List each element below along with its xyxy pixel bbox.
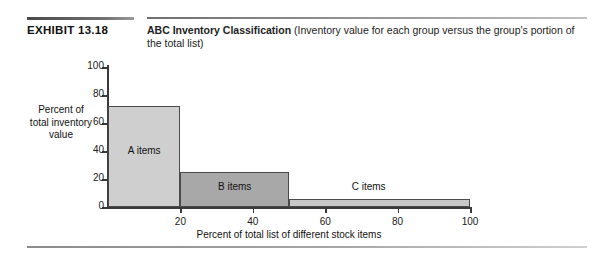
y-axis-tick-label: 0: [98, 200, 104, 211]
x-axis-tick-mark: [398, 207, 400, 213]
x-axis-tick-mark: [253, 207, 255, 213]
x-axis-tick-label: 100: [462, 216, 479, 227]
bar-label-b: B items: [218, 181, 251, 192]
exhibit-number: EXHIBIT 13.18: [27, 24, 108, 36]
y-axis-tick-label: 20: [93, 172, 104, 183]
y-axis-tick-label: 40: [93, 144, 104, 155]
bar-label-c: C items: [352, 181, 386, 192]
bar-label-a: A items: [128, 145, 161, 156]
chart-area: Percent of total inventory value 0204060…: [0, 58, 609, 238]
y-axis-tick-label: 60: [93, 116, 104, 127]
exhibit-header: EXHIBIT 13.18 ABC Inventory Classificati…: [0, 0, 609, 58]
x-axis-tick-label: 60: [320, 216, 331, 227]
bar-c: [289, 199, 470, 207]
exhibit-caption: ABC Inventory Classification (Inventory …: [147, 24, 590, 50]
footer-rule: [27, 246, 587, 248]
x-axis-tick-label: 80: [392, 216, 403, 227]
x-axis-line: [107, 207, 471, 209]
x-axis-tick-mark: [180, 207, 182, 213]
x-axis-tick-mark: [325, 207, 327, 213]
x-axis-tick-mark: [470, 207, 472, 213]
x-axis-title: Percent of total list of different stock…: [108, 229, 470, 240]
header-rule-left: [27, 17, 134, 20]
y-axis-tick-label: 100: [87, 60, 104, 71]
header-rule-right: [147, 17, 587, 19]
bar-a: [108, 106, 180, 207]
exhibit-caption-title: ABC Inventory Classification: [147, 24, 291, 36]
y-axis-tick-label: 80: [93, 88, 104, 99]
x-axis-tick-label: 20: [175, 216, 186, 227]
y-axis-title: Percent of total inventory value: [28, 104, 94, 142]
plot-region: 02040608010020406080100A itemsB itemsC i…: [108, 67, 470, 207]
x-axis-tick-label: 40: [247, 216, 258, 227]
